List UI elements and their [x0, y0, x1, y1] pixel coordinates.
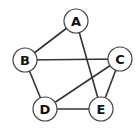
nodes-layer: ABCDE [13, 9, 132, 121]
node-label: B [20, 53, 30, 68]
node-label: D [40, 102, 51, 117]
edge-b-c [25, 59, 120, 60]
node-label: E [97, 102, 106, 117]
edges-layer [25, 21, 120, 109]
node-label: A [71, 14, 81, 29]
node-d: D [33, 97, 57, 121]
edge-a-e [76, 21, 101, 109]
graph-diagram: ABCDE [0, 0, 138, 131]
node-a: A [64, 9, 88, 33]
node-label: C [115, 52, 125, 67]
node-b: B [13, 48, 37, 72]
node-c: C [108, 47, 132, 71]
node-e: E [89, 97, 113, 121]
